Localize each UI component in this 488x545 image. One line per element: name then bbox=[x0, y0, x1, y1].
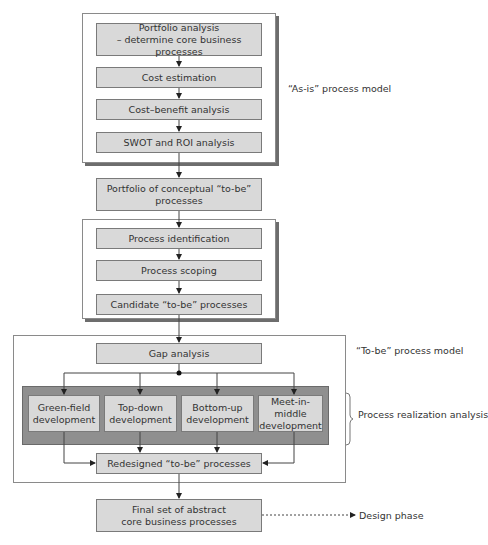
as-is-label: “As-is” process model bbox=[288, 83, 391, 94]
top-down-box: Top-down development bbox=[104, 395, 177, 432]
swot-roi-box: SWOT and ROI analysis bbox=[96, 132, 262, 153]
portfolio-conceptual-box: Portfolio of conceptual “to-be” processe… bbox=[96, 178, 262, 211]
realization-label: Process realization analysis bbox=[358, 409, 488, 420]
portfolio-analysis-box: Portfolio analysis – determine core busi… bbox=[96, 23, 262, 56]
cost-benefit-box: Cost–benefit analysis bbox=[96, 99, 262, 120]
design-phase-label: Design phase bbox=[359, 510, 424, 521]
redesigned-box: Redesigned “to-be” processes bbox=[96, 453, 262, 474]
meet-in-middle-box: Meet-in-middle development bbox=[258, 395, 323, 432]
process-identification-box: Process identification bbox=[96, 228, 262, 249]
green-field-box: Green-field development bbox=[28, 395, 100, 432]
to-be-label: “To-be” process model bbox=[356, 345, 463, 356]
candidate-to-be-box: Candidate “to-be” processes bbox=[96, 294, 262, 315]
bottom-up-box: Bottom-up development bbox=[181, 395, 254, 432]
cost-estimation-box: Cost estimation bbox=[96, 67, 262, 88]
gap-analysis-box: Gap analysis bbox=[96, 343, 262, 364]
final-set-box: Final set of abstract core business proc… bbox=[96, 499, 262, 532]
process-scoping-box: Process scoping bbox=[96, 260, 262, 281]
